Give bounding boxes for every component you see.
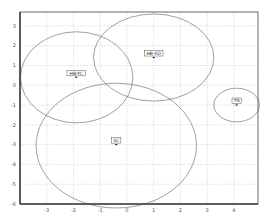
y-tick-label: -1 bbox=[11, 102, 16, 108]
x-tick-label: 1 bbox=[152, 207, 155, 213]
y-axis-ticks: 3210-1-2-3-4-5-6 bbox=[11, 23, 16, 207]
y-tick-label: 2 bbox=[13, 42, 16, 48]
plot-frame bbox=[20, 12, 258, 204]
y-tick-label: -5 bbox=[11, 181, 16, 187]
marker-icon bbox=[152, 57, 155, 59]
marker-icon bbox=[235, 104, 238, 106]
point-label: SC bbox=[113, 138, 119, 143]
x-tick-label: 2 bbox=[179, 207, 182, 213]
y-tick-label: -2 bbox=[11, 122, 16, 128]
x-tick-label: -3 bbox=[44, 207, 49, 213]
point-hb-xd: HB-XD bbox=[144, 51, 163, 59]
y-tick-label: -4 bbox=[11, 161, 16, 167]
point-label: HB-XD bbox=[146, 51, 161, 56]
point-label: HB-YC bbox=[70, 71, 83, 76]
scatter-chart: HB-YCHB-XDSCYN 3210-1-2-3-4-5-6 -3-2-101… bbox=[0, 0, 265, 217]
y-tick-label: 3 bbox=[13, 23, 16, 29]
marker-icon bbox=[115, 144, 118, 146]
confidence-ellipses bbox=[21, 14, 260, 208]
data-points: HB-YCHB-XDSCYN bbox=[67, 51, 241, 146]
x-tick-label: 0 bbox=[125, 207, 128, 213]
x-tick-label: -2 bbox=[71, 207, 76, 213]
x-axis-ticks: -3-2-101234 bbox=[44, 207, 235, 213]
y-tick-label: -3 bbox=[11, 141, 16, 147]
x-tick-label: -1 bbox=[98, 207, 103, 213]
y-tick-label: 0 bbox=[13, 82, 16, 88]
point-label: YN bbox=[233, 98, 240, 103]
grid-lines bbox=[20, 12, 258, 204]
point-yn: YN bbox=[232, 98, 241, 106]
x-tick-label: 3 bbox=[206, 207, 209, 213]
marker-icon bbox=[75, 77, 78, 79]
y-tick-label: -6 bbox=[11, 201, 16, 207]
point-hb-yc: HB-YC bbox=[67, 70, 86, 78]
y-tick-label: 1 bbox=[13, 62, 16, 68]
x-tick-label: 4 bbox=[232, 207, 235, 213]
